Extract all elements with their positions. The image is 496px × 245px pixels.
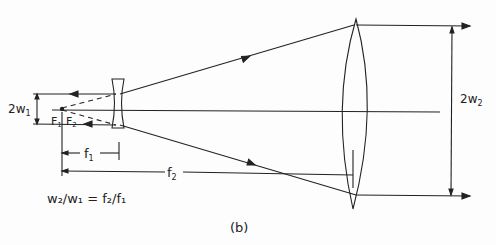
optical-axis bbox=[52, 110, 440, 112]
focal-point-2-label: F2 bbox=[66, 115, 77, 129]
converging-lens bbox=[342, 19, 367, 209]
focal-point-dot bbox=[60, 107, 63, 110]
output-ray-top bbox=[356, 25, 470, 26]
output-ray-bottom bbox=[356, 195, 470, 196]
arrow-icon bbox=[84, 121, 92, 127]
arrow-icon bbox=[242, 56, 251, 62]
focal-point-1-label: F1 bbox=[51, 115, 62, 129]
virtual-ray-top bbox=[62, 94, 116, 108]
diagram-svg: 2w1 F1 F2 f1 f2 2w2 w₂/w₁ = f₂/f₁ (b) bbox=[0, 0, 496, 245]
arrow-icon bbox=[462, 193, 470, 199]
magnification-equation: w₂/w₁ = f₂/f₁ bbox=[47, 191, 126, 206]
arrow-icon bbox=[62, 169, 68, 173]
output-width-label: 2w2 bbox=[460, 92, 483, 108]
f1-label: f1 bbox=[84, 146, 94, 163]
arrow-icon bbox=[70, 91, 78, 97]
f2-dimension-left bbox=[62, 171, 165, 172]
arrow-icon bbox=[462, 23, 470, 29]
output-width-dimension bbox=[451, 27, 452, 195]
diverging-ray-bottom bbox=[120, 125, 356, 195]
beam-expander-diagram: 2w1 F1 F2 f1 f2 2w2 w₂/w₁ = f₂/f₁ (b) bbox=[0, 0, 496, 245]
arrow-icon bbox=[62, 151, 68, 155]
input-width-label: 2w1 bbox=[8, 102, 31, 118]
panel-label: (b) bbox=[230, 220, 248, 235]
f2-dimension-right bbox=[183, 172, 353, 175]
f2-label: f2 bbox=[167, 165, 177, 182]
arrow-icon bbox=[247, 159, 255, 165]
diverging-ray-top bbox=[120, 25, 354, 94]
diverging-lens bbox=[112, 79, 124, 128]
